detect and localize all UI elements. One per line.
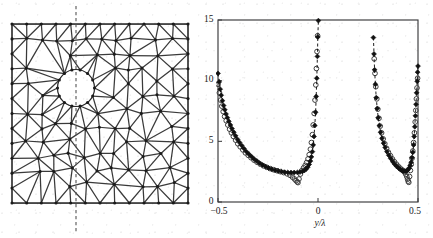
y-tick-label-15: 15 (204, 15, 214, 25)
field-profile-panel (216, 0, 433, 238)
plot-drawing (216, 0, 433, 238)
x-tick-label-0: 0 (316, 207, 321, 217)
mesh-drawing (0, 0, 216, 238)
x-tick-label-minus-0-5: −0.5 (210, 207, 227, 217)
y-tick-label-10: 10 (204, 75, 214, 85)
y-tick-label-5: 5 (209, 136, 214, 146)
x-tick-label-0-5: 0.5 (409, 207, 421, 217)
x-axis-title: y/λ (315, 219, 326, 229)
finite-element-mesh-panel (0, 0, 216, 238)
figure-root: 15 10 5 0 −0.5 0 0.5 y/λ (0, 0, 433, 238)
